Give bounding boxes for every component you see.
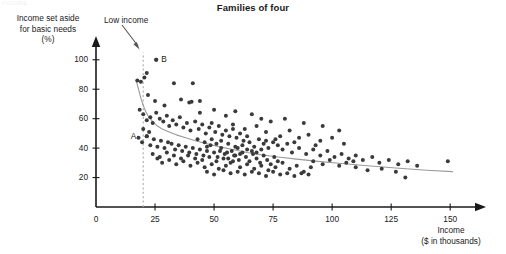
chart-figure: FIGURE Families of four Income set aside… [0, 0, 506, 254]
data-point [318, 153, 322, 157]
data-point [178, 115, 182, 119]
data-point [224, 114, 228, 118]
data-point [415, 164, 419, 168]
data-point [165, 114, 169, 118]
data-point [292, 174, 296, 178]
data-point [340, 152, 344, 156]
data-point [229, 161, 233, 165]
data-point [151, 121, 155, 125]
data-point [244, 155, 248, 159]
data-point [170, 142, 174, 146]
data-point [304, 152, 308, 156]
y-axis-label-line2: for basic needs [20, 24, 76, 34]
x-tick-label: 50 [194, 214, 234, 224]
chart-title: Families of four [0, 2, 506, 13]
x-axis-label-line1: Income [437, 225, 464, 235]
data-point [231, 123, 235, 127]
data-point [205, 170, 209, 174]
data-point [226, 142, 230, 146]
data-point [257, 137, 261, 141]
data-point [174, 123, 178, 127]
data-point [255, 124, 259, 128]
data-point [332, 155, 336, 159]
data-point [210, 121, 214, 125]
data-point [243, 127, 247, 131]
data-point [193, 156, 197, 160]
data-point [196, 137, 200, 141]
data-point [264, 174, 268, 178]
data-point [264, 139, 268, 143]
data-point [314, 143, 318, 147]
data-point [167, 124, 171, 128]
data-point [330, 136, 334, 140]
data-point [311, 159, 315, 163]
x-tick-label: 0 [76, 214, 116, 224]
data-point [188, 164, 192, 168]
data-points-group [135, 58, 450, 180]
data-point [269, 120, 273, 124]
y-tick-label: 40 [52, 143, 88, 153]
y-axis-label-line1: Income set aside [17, 13, 80, 23]
data-point [403, 176, 407, 180]
data-point [247, 140, 251, 144]
data-point [299, 171, 303, 175]
data-point [205, 145, 209, 149]
data-point [240, 143, 244, 147]
data-point [151, 152, 155, 156]
data-point [238, 165, 242, 169]
data-point [307, 133, 311, 137]
data-point [210, 137, 214, 141]
data-point [198, 111, 202, 115]
data-point [203, 165, 207, 169]
data-point [227, 134, 231, 138]
data-point [137, 136, 141, 140]
data-point [285, 142, 289, 146]
data-point [252, 145, 256, 149]
data-point [203, 140, 207, 144]
data-point [205, 149, 209, 153]
data-point [396, 162, 400, 166]
data-point [297, 136, 301, 140]
data-point [278, 173, 282, 177]
data-point [220, 133, 224, 137]
x-axis-label: Income ($ in thousands) [398, 225, 504, 246]
data-point [171, 118, 175, 122]
data-point [159, 139, 163, 143]
data-point [265, 158, 269, 162]
data-point [342, 142, 346, 146]
data-point [235, 136, 239, 140]
data-point [243, 173, 247, 177]
data-point [311, 148, 315, 152]
data-point [262, 153, 266, 157]
data-point [347, 156, 351, 160]
data-point [370, 155, 374, 159]
data-point [232, 153, 236, 157]
data-point [297, 146, 301, 150]
data-point [281, 161, 285, 165]
data-point [212, 151, 216, 155]
data-point [145, 118, 149, 122]
data-point [380, 167, 384, 171]
data-point [361, 158, 365, 162]
data-point [242, 139, 246, 143]
data-point [216, 155, 220, 159]
data-point [245, 134, 249, 138]
point-a-label: A [131, 131, 137, 141]
data-point [354, 153, 358, 157]
data-point [233, 109, 237, 113]
data-point [276, 143, 280, 147]
x-tick-label: 75 [253, 214, 293, 224]
data-point [139, 80, 143, 84]
data-point [245, 162, 249, 166]
data-point [266, 168, 270, 172]
data-point [222, 156, 226, 160]
data-point [266, 146, 270, 150]
data-point [337, 164, 341, 168]
data-point [292, 140, 296, 144]
data-point [250, 149, 254, 153]
data-point [288, 167, 292, 171]
data-point [179, 98, 183, 102]
data-point [188, 128, 192, 132]
point-b-label: B [161, 54, 167, 64]
data-point [204, 131, 208, 135]
